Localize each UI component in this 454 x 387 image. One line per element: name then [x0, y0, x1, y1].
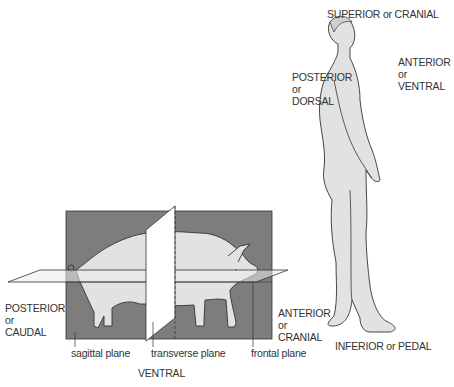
label-posterior-pig-line3: CAUDAL: [5, 326, 65, 338]
human-figure: [319, 16, 395, 332]
anatomical-planes-illustration: [0, 0, 454, 387]
label-transverse-plane: transverse plane: [151, 347, 225, 359]
label-anterior-human-line2: or: [398, 68, 451, 80]
label-anterior-human: ANTERIOR or VENTRAL: [398, 56, 451, 92]
label-posterior-human-line3: DORSAL: [292, 95, 352, 107]
label-posterior-human-line2: or: [292, 83, 352, 95]
label-posterior-human: POSTERIOR or DORSAL: [292, 71, 352, 107]
label-anterior-pig: ANTERIOR or CRANIAL: [278, 307, 331, 343]
label-posterior-pig-line1: POSTERIOR: [5, 302, 65, 314]
label-superior: SUPERIOR or CRANIAL: [327, 8, 439, 20]
human-body: [319, 17, 395, 332]
label-anterior-pig-line2: or: [278, 319, 331, 331]
label-anterior-pig-line1: ANTERIOR: [278, 307, 331, 319]
label-anterior-human-line1: ANTERIOR: [398, 56, 451, 68]
label-inferior: INFERIOR or PEDAL: [335, 340, 431, 352]
label-posterior-pig: POSTERIOR or CAUDAL: [5, 302, 65, 338]
label-anterior-human-line3: VENTRAL: [398, 80, 451, 92]
label-anterior-pig-line3: CRANIAL: [278, 331, 331, 343]
label-posterior-pig-line2: or: [5, 314, 65, 326]
label-frontal-plane: frontal plane: [251, 347, 306, 359]
label-sagittal-plane: sagittal plane: [71, 347, 130, 359]
label-ventral-pig: VENTRAL: [138, 367, 185, 379]
transverse-plane-shape: [146, 206, 175, 341]
label-posterior-human-line1: POSTERIOR: [292, 71, 352, 83]
